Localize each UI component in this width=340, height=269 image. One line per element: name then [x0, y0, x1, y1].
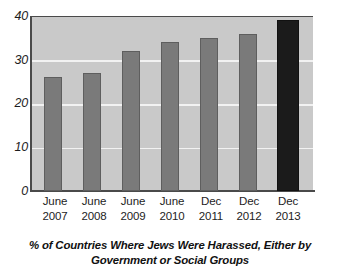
caption-line-2: Government or Social Groups [14, 253, 326, 268]
bar-june-2007 [44, 77, 62, 191]
y-tick-label-10: 10 [2, 140, 28, 154]
x-tick-line2: 2013 [259, 209, 317, 224]
x-tick-line1: Dec [278, 195, 298, 207]
bar-dec-2013 [277, 20, 299, 191]
y-axis: 40 30 20 10 0 [0, 0, 28, 269]
bar-june-2009 [122, 51, 140, 191]
x-tick-line1: June [82, 195, 107, 207]
x-tick-line1: Dec [201, 195, 221, 207]
bar-dec-2012 [239, 34, 257, 192]
x-tick-line1: June [160, 195, 185, 207]
y-tick-label-40: 40 [2, 9, 28, 23]
bar-dec-2011 [200, 38, 218, 191]
y-tick-label-30: 30 [2, 53, 28, 67]
bar-june-2010 [161, 42, 179, 191]
chart-caption: % of Countries Where Jews Were Harassed,… [14, 238, 326, 267]
bar-chart-figure: 40 30 20 10 0 June 2007 June 2008 June [0, 0, 340, 269]
bar-june-2008 [83, 73, 101, 191]
caption-line-1: % of Countries Where Jews Were Harassed,… [14, 238, 326, 253]
bar-series [30, 16, 313, 191]
x-tick-line1: Dec [239, 195, 259, 207]
x-tick-line1: June [121, 195, 146, 207]
x-tick-line1: June [43, 195, 68, 207]
x-axis: June 2007 June 2008 June 2009 June 2010 … [30, 194, 313, 228]
y-tick-label-0: 0 [2, 184, 28, 198]
y-tick-label-20: 20 [2, 96, 28, 110]
x-tick-label-dec-2013: Dec 2013 [259, 194, 317, 223]
